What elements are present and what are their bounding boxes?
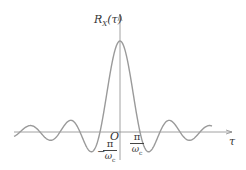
tick-label-pi-over-omega-c: π ωc bbox=[130, 132, 144, 156]
y-axis-label: RX(τ) bbox=[94, 14, 122, 28]
tick-label-neg-pi-over-omega-c: π ωc bbox=[103, 139, 117, 163]
x-axis-label: τ bbox=[229, 136, 235, 147]
autocorrelation-plot bbox=[0, 0, 246, 170]
